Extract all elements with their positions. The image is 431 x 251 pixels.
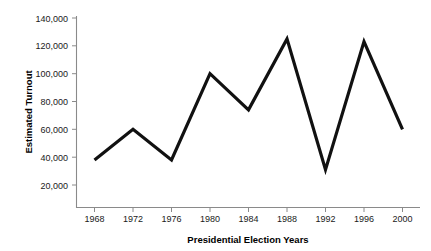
x-axis-tick-label: 1976 xyxy=(161,214,181,224)
x-axis-tick-label: 1984 xyxy=(238,214,258,224)
y-axis-tick-label: 140,000 xyxy=(35,14,68,24)
y-axis-tick-label: 20,000 xyxy=(40,181,68,191)
line-chart-figure: 140,000 120,000 100,000 80,000 60,000 40… xyxy=(0,0,431,251)
x-axis-tick-label: 1972 xyxy=(123,214,143,224)
y-axis-tick-label: 80,000 xyxy=(40,97,68,107)
x-axis-tick-label: 2000 xyxy=(392,214,412,224)
x-axis-title: Presidential Election Years xyxy=(187,234,308,245)
x-axis-tick-label: 1980 xyxy=(200,214,220,224)
chart-plot-area: 140,000 120,000 100,000 80,000 60,000 40… xyxy=(0,0,431,251)
y-axis-tick-label: 120,000 xyxy=(35,41,68,51)
y-axis-tick-label: 60,000 xyxy=(40,125,68,135)
x-axis-tick-label: 1968 xyxy=(84,214,104,224)
y-axis-tick-label: 40,000 xyxy=(40,153,68,163)
x-axis-tick-label: 1996 xyxy=(354,214,374,224)
turnout-line-series xyxy=(95,39,403,170)
y-axis-tick-label: 100,000 xyxy=(35,69,68,79)
x-axis-tick-label: 1988 xyxy=(277,214,297,224)
x-axis-tick-label: 1992 xyxy=(315,214,335,224)
y-axis-title: Estimated Turnout xyxy=(23,70,34,154)
